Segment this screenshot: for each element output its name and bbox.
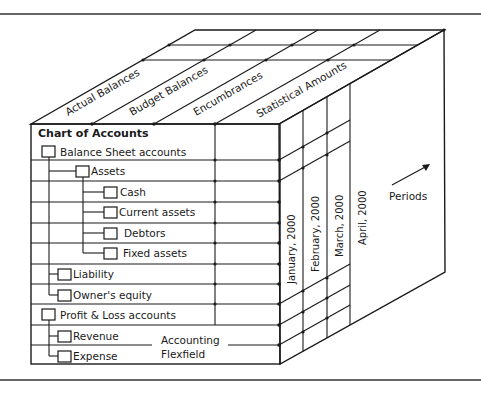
checkbox-icon	[58, 290, 71, 301]
tree-item-label: Balance Sheet accounts	[60, 146, 186, 158]
checkbox-icon	[42, 309, 55, 320]
tree-item-label: Debtors	[124, 227, 166, 239]
checkbox-icon	[58, 351, 71, 362]
flexfield-label-line2: Flexfield	[161, 348, 205, 360]
tree-item-liability: Liability	[58, 268, 114, 280]
period-label-march: March, 2000	[334, 195, 345, 257]
checkbox-icon	[104, 187, 117, 198]
tree-item-debtors: Debtors	[104, 227, 166, 239]
tree-item-revenue: Revenue	[58, 330, 119, 342]
checkbox-icon	[58, 269, 71, 280]
checkbox-icon	[58, 331, 71, 342]
flexfield-label-line1: Accounting	[161, 334, 220, 346]
period-label-february: February, 2000	[310, 196, 321, 272]
tree-item-balance-sheet: Balance Sheet accounts	[42, 146, 186, 158]
tree-item-label: Profit & Loss accounts	[60, 309, 176, 321]
tree-item-fixed-assets: Fixed assets	[104, 247, 187, 259]
tree-item-cash: Cash	[104, 186, 146, 198]
tree-item-label: Owner's equity	[73, 289, 152, 301]
checkbox-icon	[76, 166, 89, 177]
tree-item-label: Liability	[73, 268, 114, 280]
tree-item-label: Expense	[73, 350, 118, 362]
tree-item-profit-loss: Profit & Loss accounts	[42, 309, 176, 321]
period-label-april: April, 2000	[357, 190, 368, 245]
cube-top-face: Actual Balances Budget Balances Encumbra…	[31, 28, 446, 125]
checkbox-icon	[104, 228, 117, 239]
tree-item-owners-equity: Owner's equity	[58, 289, 152, 301]
tree-item-expense: Expense	[58, 350, 118, 362]
tree-item-label: Current assets	[119, 206, 195, 218]
tree-item-label: Revenue	[73, 330, 119, 342]
tree-item-label: Cash	[120, 186, 146, 198]
tree-connectors	[49, 157, 104, 356]
checkbox-icon	[104, 207, 117, 218]
cube-front-face: Chart of Accounts Balance Sheet accounts…	[31, 124, 281, 364]
tree-item-assets: Assets	[76, 165, 125, 177]
period-label-january: January, 2000	[286, 214, 297, 285]
periods-axis-label: Periods	[389, 190, 427, 202]
checkbox-icon	[104, 248, 117, 259]
tree-item-label: Assets	[91, 165, 125, 177]
checkbox-icon	[42, 146, 55, 157]
tree-item-label: Fixed assets	[123, 247, 187, 259]
accounting-cube-diagram: Actual Balances Budget Balances Encumbra…	[0, 0, 481, 393]
tree-item-current-assets: Current assets	[104, 206, 195, 218]
periods-arrow-icon	[392, 164, 430, 185]
chart-of-accounts-title: Chart of Accounts	[38, 127, 149, 140]
